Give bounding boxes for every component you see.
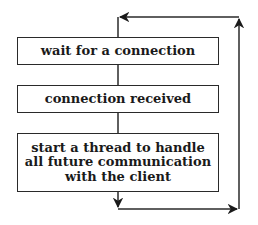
step-label-line-2: all future communication (25, 155, 211, 170)
step-label: wait for a connection (41, 44, 195, 59)
step-connection-received: connection received (17, 85, 219, 113)
step-label: connection received (45, 92, 191, 107)
step-label-line-1: start a thread to handle (31, 141, 205, 156)
step-wait-for-connection: wait for a connection (17, 37, 219, 65)
flowchart-diagram: wait for a connection connection receive… (0, 0, 258, 225)
step-label-line-3: with the client (65, 170, 171, 185)
step-start-thread: start a thread to handle all future comm… (17, 133, 219, 192)
